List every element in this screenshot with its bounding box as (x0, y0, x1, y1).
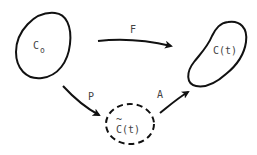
p-label: P (88, 91, 94, 102)
diagram-canvas: Co F C(t) P C(t) ~ A (0, 0, 257, 155)
ctilde-label: C(t) (116, 124, 140, 135)
a-arrow (160, 92, 188, 113)
c0-label: Co (33, 40, 45, 55)
edge-f: F (98, 24, 171, 46)
f-arrow (98, 40, 171, 46)
ct-label: C(t) (213, 45, 237, 56)
node-c0: Co (16, 13, 70, 78)
edge-p: P (63, 86, 99, 115)
node-ct: C(t) (188, 22, 246, 87)
ctilde-accent: ~ (116, 114, 122, 125)
node-ctilde: C(t) ~ (106, 104, 154, 144)
a-label: A (157, 89, 163, 100)
f-label: F (130, 24, 136, 35)
edge-a: A (157, 89, 188, 113)
